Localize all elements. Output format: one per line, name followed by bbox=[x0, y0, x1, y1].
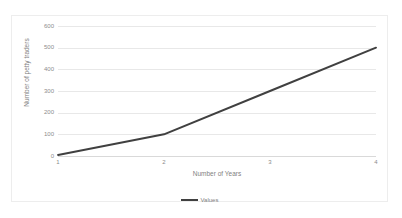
y-axis-tick-labels: 0100200300400500600 bbox=[26, 26, 54, 156]
x-axis-title: Number of Years bbox=[58, 170, 376, 177]
legend-line-swatch-icon bbox=[181, 199, 198, 201]
y-axis-tick-label: 100 bbox=[44, 131, 54, 138]
y-axis-tick-label: 200 bbox=[44, 109, 54, 116]
y-axis-tick-label: 500 bbox=[44, 44, 54, 51]
x-axis-tick-label: 1 bbox=[56, 158, 59, 166]
y-axis-tick-label: 600 bbox=[44, 23, 54, 30]
legend-label-values: Values bbox=[201, 196, 219, 204]
chart-frame: Number of petty traders 0100200300400500… bbox=[11, 15, 388, 202]
x-axis-tick-labels: 1234 bbox=[58, 158, 376, 168]
x-axis-tick-label: 2 bbox=[162, 158, 165, 166]
series-polyline bbox=[58, 48, 376, 155]
y-axis-tick-label: 0 bbox=[51, 153, 54, 160]
y-axis-tick-label: 300 bbox=[44, 88, 54, 95]
x-axis-tick-label: 4 bbox=[374, 158, 377, 166]
y-axis-tick-label: 400 bbox=[44, 66, 54, 73]
zero-axis-line bbox=[58, 156, 376, 157]
series-line-values bbox=[58, 26, 376, 156]
chart-legend: Values bbox=[12, 196, 387, 204]
plot-area bbox=[58, 26, 376, 156]
x-axis-tick-label: 3 bbox=[268, 158, 271, 166]
